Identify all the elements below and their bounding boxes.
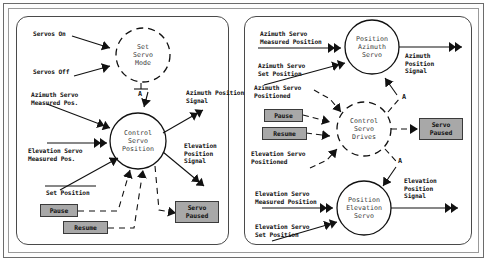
label-elevation-position-signal-left: Elevation Position Signal <box>184 142 217 165</box>
bubble-label-position-azimuth-servo: Position Azimuth Servo <box>356 35 388 60</box>
bubble-label-control-servo-drives: Control Servo Drives <box>350 117 378 142</box>
label-elevation-servo-set-position: Elevation Servo Set Position <box>255 223 309 238</box>
label-azimuth-position-signal-right: Azimuth Position Signal <box>405 52 434 75</box>
label-azimuth-servo-measured-position: Azimuth Servo Measured Position <box>260 30 322 45</box>
control-box-resume-left[interactable]: Resume <box>63 221 108 234</box>
label-set-position: Set Position <box>46 189 90 197</box>
label-azimuth-position-signal-left: Azimuth Position Signal <box>186 89 244 104</box>
junction-a-right-lower: A <box>398 157 402 165</box>
label-servos-on: Servos On <box>33 30 66 38</box>
control-box-servo-paused-left[interactable]: Servo Paused <box>175 201 219 223</box>
bubble-label-set-servo-mode: Set Servo Mode <box>133 43 153 68</box>
control-box-servo-paused-right[interactable]: Servo Paused <box>419 118 463 140</box>
bubble-label-position-elevation-servo: Position Elevation Servo <box>346 196 382 221</box>
label-azimuth-servo-set-position: Azimuth Servo Set Position <box>258 62 305 77</box>
label-elevation-position-signal-right: Elevation Position Signal <box>404 177 437 200</box>
label-elevation-servo-positioned: Elevation Servo Positioned <box>251 150 305 165</box>
diagram-screenshot: Set Servo Mode Control Servo Position Se… <box>0 0 488 262</box>
control-box-resume-right[interactable]: Resume <box>262 127 307 140</box>
label-servos-off: Servos Off <box>33 68 69 76</box>
label-azimuth-servo-measured-pos: Azimuth Servo Measured Pos. <box>31 91 78 106</box>
junction-a-right-upper: A <box>402 93 406 101</box>
junction-a-left: A <box>138 90 142 98</box>
bubble-label-control-servo-position: Control Servo Position <box>122 129 154 154</box>
control-box-pause-left[interactable]: Pause <box>40 204 78 217</box>
label-elevation-servo-measured-position: Elevation Servo Measured Position <box>255 190 317 205</box>
control-box-pause-right[interactable]: Pause <box>264 109 303 122</box>
label-elevation-servo-measured-pos: Elevation Servo Measured Pos. <box>28 147 82 162</box>
label-azimuth-servo-positioned: Azimuth Servo Positioned <box>254 84 301 99</box>
